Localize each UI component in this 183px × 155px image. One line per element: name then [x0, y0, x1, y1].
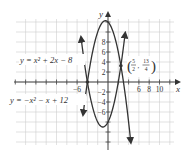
- point-annotation: ( 5 2 , 13 4 ): [127, 56, 156, 77]
- intersection-point: [119, 64, 123, 68]
- chart: −668108642−2−4−6 x y y = x² + 2x − 8 y =…: [0, 0, 183, 155]
- svg-text:−6: −6: [98, 108, 106, 117]
- svg-text:−2: −2: [98, 88, 106, 97]
- svg-text:4: 4: [145, 66, 148, 72]
- y-axis-label: y: [98, 9, 103, 19]
- svg-text:4: 4: [102, 58, 106, 67]
- svg-text:−4: −4: [98, 98, 106, 107]
- svg-text:8: 8: [102, 38, 106, 47]
- svg-text:5: 5: [132, 58, 135, 64]
- svg-text:2: 2: [132, 66, 135, 72]
- svg-text:6: 6: [102, 48, 106, 57]
- equation-2-label: y = −x² − x + 12: [9, 95, 69, 105]
- svg-text:10: 10: [156, 85, 164, 94]
- x-axis-label: x: [175, 84, 180, 94]
- svg-text:13: 13: [143, 58, 149, 64]
- svg-text:,: ,: [138, 62, 140, 70]
- svg-text:−6: −6: [73, 85, 81, 94]
- axes: [14, 14, 178, 150]
- equation-1-label: y = x² + 2x − 8: [19, 55, 73, 65]
- intersection-point: [86, 80, 90, 84]
- svg-text:8: 8: [147, 85, 151, 94]
- svg-text:2: 2: [102, 68, 106, 77]
- svg-text:6: 6: [137, 85, 141, 94]
- svg-text:): ): [151, 58, 156, 75]
